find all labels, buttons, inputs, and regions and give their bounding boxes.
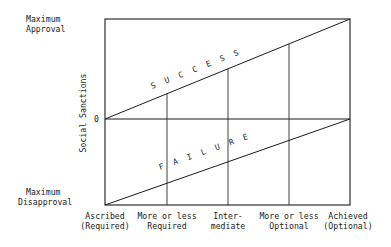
x-tick-label-3-line1: Inter- [213, 211, 243, 221]
x-tick-label-5-line1: Achieved [328, 211, 368, 221]
x-tick-label-5-line2: (Optional) [323, 221, 372, 231]
y-max-approval-label-line1: Maximum [26, 14, 61, 24]
y-zero-label: 0 [94, 114, 99, 124]
x-tick-label-4-line1: More or less [259, 211, 318, 221]
x-tick-label-2-line1: More or less [137, 211, 196, 221]
success-trend-line [105, 19, 350, 119]
x-tick-label-1-line2: (Required) [80, 221, 129, 231]
failure-label: F A I L U R E [158, 132, 252, 172]
x-tick-label-3-line2: mediate [211, 221, 246, 231]
x-tick-label-2-line2: Required [147, 221, 187, 231]
plot-frame [105, 19, 350, 205]
x-tick-label-4-line2: Optional [269, 221, 309, 231]
y-axis-title: Social Sanctions [78, 73, 88, 152]
y-max-approval-label-line2: Approval [26, 24, 66, 34]
y-max-disapproval-label-line1: Maximum [26, 187, 61, 197]
sanctions-diagram: S U C C E S S F A I L U R E Social Sanct… [0, 0, 391, 247]
x-tick-label-1-line1: Ascribed [85, 211, 125, 221]
failure-trend-line [105, 119, 350, 205]
y-max-disapproval-label-line2: Disapproval [18, 197, 72, 207]
